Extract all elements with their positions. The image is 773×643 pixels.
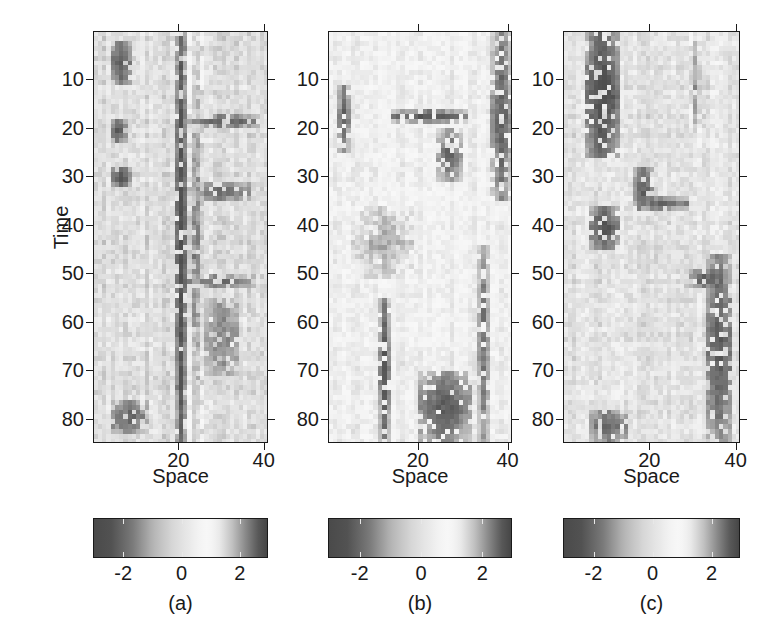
panel-b-y-tick: [321, 322, 328, 323]
panel-a-y-tick-label: 70: [62, 359, 84, 382]
panel-b-colorbar-tick-top: [360, 519, 361, 524]
panel-c-y-tick: [556, 128, 563, 129]
panel-a-y-tick-right: [268, 419, 275, 420]
panel-a-axes: Time Space 10203040506070802040: [93, 31, 268, 443]
panel-b-y-tick-label: 30: [297, 165, 319, 188]
panel-c-x-tick-top: [649, 24, 650, 31]
panel-a-colorbar-tick-top: [240, 519, 241, 524]
panel-a-y-tick: [86, 322, 93, 323]
panel-b-colorbar-tick-label: 2: [477, 562, 488, 585]
panel-a-caption: (a): [93, 592, 268, 615]
panel-c-y-tick-label: 60: [532, 310, 554, 333]
panel-a-y-tick-right: [268, 322, 275, 323]
panel-c-y-tick-right: [740, 225, 747, 226]
panel-c-y-tick-label: 20: [532, 116, 554, 139]
panel-b-y-tick: [321, 419, 328, 420]
panel-c-y-tick: [556, 79, 563, 80]
figure-three-panel-spacetime-heatmaps: Time Space 10203040506070802040 Space 10…: [0, 0, 773, 643]
panel-b-x-tick-label: 20: [407, 449, 429, 472]
panel-b-y-tick-right: [512, 128, 519, 129]
panel-a-y-tick-right: [268, 273, 275, 274]
panel-b-y-tick-right: [512, 370, 519, 371]
panel-b-colorbar-gradient: [329, 519, 511, 557]
panel-b-y-tick-label: 70: [297, 359, 319, 382]
panel-c-y-tick-label: 80: [532, 407, 554, 430]
panel-b-x-tick-top: [508, 24, 509, 31]
panel-a-y-tick-right: [268, 225, 275, 226]
panel-c-y-tick-right: [740, 419, 747, 420]
panel-b-y-tick-right: [512, 176, 519, 177]
panel-c-plot-area: [563, 31, 740, 443]
panel-a-y-tick-label: 80: [62, 407, 84, 430]
panel-b-colorbar-tick-bottom: [421, 552, 422, 557]
panel-c-x-tick-label: 40: [725, 449, 747, 472]
panel-b-x-tick-top: [418, 24, 419, 31]
panel-c-y-tick: [556, 225, 563, 226]
panel-a-y-tick-right: [268, 128, 275, 129]
panel-b-y-tick-label: 80: [297, 407, 319, 430]
panel-b-y-tick-label: 60: [297, 310, 319, 333]
panel-b-plot-area: [328, 31, 512, 443]
panel-b-y-tick: [321, 370, 328, 371]
panel-b-caption: (b): [328, 592, 512, 615]
panel-b-colorbar: -202: [328, 518, 512, 558]
panel-c-y-tick: [556, 322, 563, 323]
panel-b-y-tick-label: 40: [297, 213, 319, 236]
panel-c-y-tick-label: 10: [532, 68, 554, 91]
panel-c-colorbar-tick-label: 2: [706, 562, 717, 585]
panel-c-y-tick-right: [740, 273, 747, 274]
panel-c-y-tick: [556, 273, 563, 274]
panel-b-y-tick-right: [512, 273, 519, 274]
panel-b-heatmap: [329, 32, 512, 443]
panel-b-y-tick-label: 50: [297, 262, 319, 285]
panel-b-colorbar-tick-label: -2: [351, 562, 369, 585]
panel-c-x-tick-top: [736, 24, 737, 31]
panel-c-colorbar-tick-label: 0: [647, 562, 658, 585]
panel-c-y-tick: [556, 419, 563, 420]
panel-a-y-tick-right: [268, 176, 275, 177]
panel-a-y-tick-label: 60: [62, 310, 84, 333]
panel-c-y-tick-right: [740, 79, 747, 80]
panel-b-y-tick: [321, 79, 328, 80]
panel-a-y-tick-label: 10: [62, 68, 84, 91]
panel-b-y-tick-right: [512, 79, 519, 80]
panel-c-y-tick-label: 40: [532, 213, 554, 236]
panel-a-colorbar-tick-label: 0: [176, 562, 187, 585]
panel-a-colorbar-tick-label: -2: [114, 562, 132, 585]
panel-b-colorbar-tick-label: 0: [415, 562, 426, 585]
panel-b-y-tick-right: [512, 419, 519, 420]
panel-c-x-tick-label: 20: [638, 449, 660, 472]
panel-b-y-tick-label: 10: [297, 68, 319, 91]
panel-b-y-tick: [321, 128, 328, 129]
panel-c-colorbar-tick-bottom: [712, 552, 713, 557]
panel-c-y-tick-label: 50: [532, 262, 554, 285]
panel-b-colorbar-tick-bottom: [360, 552, 361, 557]
panel-a-colorbar-tick-top: [123, 519, 124, 524]
panel-a-x-tick-label: 40: [253, 449, 275, 472]
panel-a-y-tick-label: 40: [62, 213, 84, 236]
panel-b-y-tick: [321, 176, 328, 177]
panel-c-y-tick-right: [740, 370, 747, 371]
panel-c-y-tick-label: 70: [532, 359, 554, 382]
panel-a-plot-area: [93, 31, 268, 443]
panel-b-colorbar-tick-top: [482, 519, 483, 524]
panel-a-colorbar-gradient: [94, 519, 267, 557]
panel-a-y-tick-right: [268, 79, 275, 80]
panel-a-y-tick: [86, 273, 93, 274]
panel-a-y-tick: [86, 419, 93, 420]
panel-c-colorbar-tick-bottom: [594, 552, 595, 557]
panel-a-colorbar: -202: [93, 518, 268, 558]
panel-c-colorbar: -202: [563, 518, 740, 558]
panel-a-x-tick-top: [178, 24, 179, 31]
panel-a-y-tick-label: 20: [62, 116, 84, 139]
panel-c-colorbar-gradient: [564, 519, 739, 557]
panel-a-colorbar-tick-top: [182, 519, 183, 524]
panel-c-colorbar-tick-top: [653, 519, 654, 524]
panel-a-y-tick: [86, 128, 93, 129]
panel-c-caption: (c): [563, 592, 740, 615]
panel-c-axes: Space 10203040506070802040: [563, 31, 740, 443]
panel-a-heatmap: [94, 32, 268, 443]
panel-c-colorbar-tick-top: [594, 519, 595, 524]
panel-b-y-tick-right: [512, 225, 519, 226]
panel-c-y-tick: [556, 370, 563, 371]
